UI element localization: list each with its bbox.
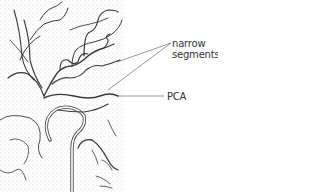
label-pca: PCA: [167, 91, 186, 102]
label-narrow-segments: narrow segments: [172, 38, 218, 60]
label-narrow-line2: segments: [172, 49, 218, 60]
leader-narrow-1: [117, 43, 171, 62]
label-narrow-line1: narrow: [172, 38, 218, 49]
